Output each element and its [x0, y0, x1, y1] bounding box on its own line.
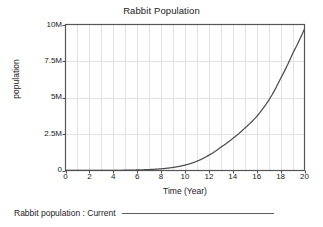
- x-tick-label: 10: [173, 172, 197, 181]
- x-tick-label: 18: [269, 172, 293, 181]
- x-tick-label: 2: [77, 172, 101, 181]
- legend-line-swatch: [122, 213, 274, 214]
- x-tick-label: 14: [221, 172, 245, 181]
- x-tick-label: 16: [245, 172, 269, 181]
- legend-label: Rabbit population : Current: [14, 208, 116, 218]
- x-tick-label: 4: [101, 172, 125, 181]
- x-tick-label: 8: [149, 172, 173, 181]
- x-tick-label: 0: [54, 172, 78, 181]
- x-gridlines: [78, 25, 294, 171]
- x-tick-label: 6: [125, 172, 149, 181]
- legend: Rabbit population : Current: [14, 206, 314, 220]
- chart-container: Rabbit Population population 10M 7.5M 5M…: [0, 0, 323, 227]
- x-tick-label: 20: [293, 172, 317, 181]
- x-axis-label: Time (Year): [65, 186, 305, 196]
- x-tick-label: 12: [197, 172, 221, 181]
